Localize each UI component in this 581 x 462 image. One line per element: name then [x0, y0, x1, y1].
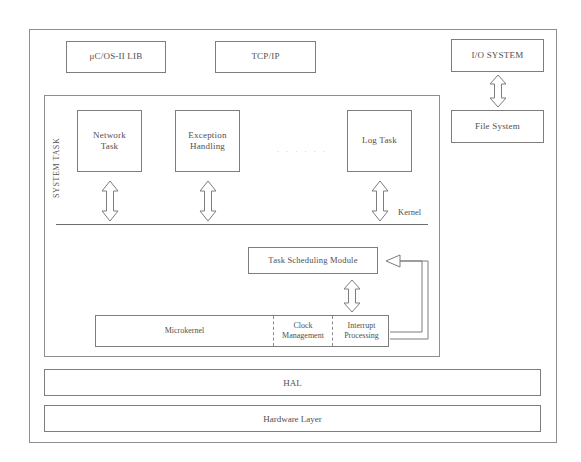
log-task-kernel-arrow-icon — [369, 180, 391, 222]
io-filesystem-double-arrow-icon — [487, 74, 509, 108]
system-task-label-text: SYSTEM TASK — [52, 138, 61, 198]
exception-task-kernel-arrow-icon — [197, 180, 219, 222]
hal-layer-bar[interactable]: HAL — [44, 369, 541, 396]
network-task-line1: Network — [93, 130, 126, 141]
exception-task-line2: Handling — [188, 141, 226, 152]
log-task-box[interactable]: Log Task — [347, 110, 412, 172]
hardware-layer-label: Hardware Layer — [263, 414, 322, 424]
microkernel-cell[interactable]: Microkernel — [96, 316, 273, 346]
exception-handling-task-box[interactable]: Exception Handling — [175, 110, 240, 172]
system-task-group-label: SYSTEM TASK — [52, 110, 66, 200]
io-system-box[interactable]: I/O SYSTEM — [451, 39, 544, 72]
clock-management-line2: Management — [282, 331, 324, 340]
hardware-layer-bar[interactable]: Hardware Layer — [44, 405, 541, 432]
hal-layer-label: HAL — [283, 378, 302, 388]
log-task-line1: Log Task — [362, 135, 397, 146]
tcpip-label: TCP/IP — [251, 51, 279, 62]
ucos-ii-lib-box[interactable]: μC/OS-II LIB — [66, 41, 166, 73]
scheduler-microkernel-double-arrow-icon — [341, 279, 363, 313]
clock-management-cell[interactable]: Clock Management — [273, 316, 332, 346]
task-scheduling-module-label: Task Scheduling Module — [268, 255, 357, 266]
interrupt-processing-line1: Interrupt — [348, 321, 376, 330]
file-system-box[interactable]: File System — [451, 110, 544, 143]
interrupt-processing-cell[interactable]: Interrupt Processing — [332, 316, 390, 346]
tasks-ellipsis: · · · · · · — [272, 146, 332, 156]
io-system-label: I/O SYSTEM — [472, 50, 524, 61]
kernel-label: Kernel — [398, 207, 421, 217]
kernel-divider — [56, 224, 428, 225]
diagram-canvas: μC/OS-II LIB TCP/IP I/O SYSTEM File Syst… — [0, 0, 581, 462]
microkernel-strip: Microkernel Clock Management Interrupt P… — [95, 315, 389, 347]
microkernel-label: Microkernel — [165, 326, 205, 335]
network-task-kernel-arrow-icon — [99, 180, 121, 222]
clock-management-line1: Clock — [293, 321, 312, 330]
task-scheduling-module-box[interactable]: Task Scheduling Module — [248, 247, 378, 274]
tcpip-box[interactable]: TCP/IP — [215, 41, 316, 73]
network-task-line2: Task — [93, 141, 126, 152]
ucos-ii-lib-label: μC/OS-II LIB — [90, 51, 143, 62]
network-task-box[interactable]: Network Task — [77, 110, 142, 172]
file-system-label: File System — [475, 121, 520, 132]
exception-task-line1: Exception — [188, 130, 226, 141]
interrupt-processing-line2: Processing — [344, 331, 379, 340]
